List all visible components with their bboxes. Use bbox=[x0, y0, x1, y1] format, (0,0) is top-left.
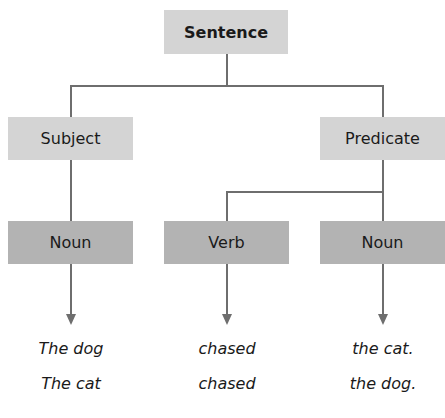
connector-to-verb bbox=[226, 191, 228, 221]
verb-label: Verb bbox=[208, 233, 244, 252]
connector-root-horizontal bbox=[70, 85, 384, 87]
example-2-verb: chased bbox=[157, 374, 297, 393]
arrow-down-icon bbox=[378, 314, 388, 325]
noun-label-object: Noun bbox=[361, 233, 403, 252]
arrow-shaft-verb bbox=[226, 264, 228, 316]
example-2-subject: The cat bbox=[1, 374, 141, 393]
example-1-verb: chased bbox=[157, 339, 297, 358]
arrow-shaft-object bbox=[382, 264, 384, 316]
connector-subject-to-noun bbox=[70, 160, 72, 221]
example-1-subject: The dog bbox=[1, 339, 141, 358]
subject-label: Subject bbox=[41, 129, 101, 148]
connector-to-predicate bbox=[382, 85, 384, 117]
connector-predicate-branch bbox=[226, 191, 384, 193]
subject-node: Subject bbox=[8, 117, 133, 160]
arrow-down-icon bbox=[66, 314, 76, 325]
noun-label-subject: Noun bbox=[49, 233, 91, 252]
predicate-node: Predicate bbox=[320, 117, 445, 160]
noun-node-object: Noun bbox=[320, 221, 445, 264]
connector-to-subject bbox=[70, 85, 72, 117]
example-2-object: the dog. bbox=[313, 374, 445, 393]
arrow-down-icon bbox=[222, 314, 232, 325]
sentence-node: Sentence bbox=[164, 10, 288, 54]
example-1-object: the cat. bbox=[313, 339, 445, 358]
arrow-shaft-subject bbox=[70, 264, 72, 316]
verb-node: Verb bbox=[164, 221, 289, 264]
noun-node-subject: Noun bbox=[8, 221, 133, 264]
connector-root-down bbox=[226, 54, 228, 86]
predicate-label: Predicate bbox=[345, 129, 420, 148]
sentence-label: Sentence bbox=[184, 23, 268, 42]
